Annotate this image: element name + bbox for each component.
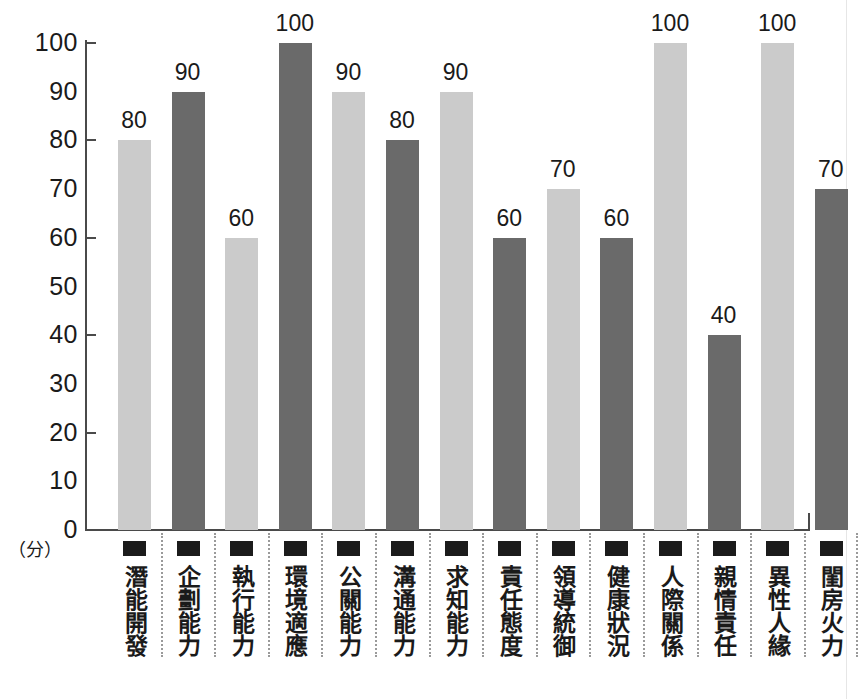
- y-axis-unit-label: （分）: [8, 540, 62, 560]
- bar: [547, 189, 580, 530]
- category-label: 領導統御: [537, 565, 589, 657]
- category-marker-icon: [445, 541, 468, 556]
- y-axis-tick-label: 30: [8, 371, 78, 396]
- bar: [654, 43, 687, 530]
- category-label: 健康狀況: [590, 565, 642, 657]
- category-label: 責任態度: [483, 565, 535, 657]
- bar-slot: 80: [108, 43, 160, 530]
- category-marker-icon: [498, 541, 521, 556]
- category-column: 環境適應: [269, 531, 321, 699]
- category-column: 責任態度: [483, 531, 535, 699]
- bar-slot: 60: [215, 43, 267, 530]
- category-marker-icon: [605, 541, 628, 556]
- category-column: 執行能力: [215, 531, 267, 699]
- category-label: 潛能開發: [108, 565, 160, 657]
- category-label: 公關能力: [322, 565, 374, 657]
- bar-value-label: 80: [376, 109, 428, 132]
- category-marker-icon: [230, 541, 253, 556]
- category-column: 人際關係: [644, 531, 696, 699]
- category-marker-icon: [659, 541, 682, 556]
- bar-value-label: 40: [698, 304, 750, 327]
- category-column: 企劃能力: [162, 531, 214, 699]
- bar-value-label: 90: [322, 61, 374, 84]
- category-label: 執行能力: [215, 565, 267, 657]
- category-label: 企劃能力: [162, 565, 214, 657]
- category-column: 潛能開發: [108, 531, 160, 699]
- y-axis-tick-label: 80: [8, 127, 78, 152]
- y-axis-tick-labels: 1009080706050403020100: [0, 0, 78, 699]
- bar-value-label: 60: [215, 207, 267, 230]
- bar-slot: 90: [162, 43, 214, 530]
- bar-slot: 90: [430, 43, 482, 530]
- bar-slot: 60: [483, 43, 535, 530]
- category-marker-icon: [552, 541, 575, 556]
- category-column: 健康狀況: [590, 531, 642, 699]
- y-axis-tick-label: 50: [8, 274, 78, 299]
- bar: [118, 140, 151, 530]
- y-axis-tick-label: 90: [8, 79, 78, 104]
- category-column: 異性人緣: [751, 531, 803, 699]
- bar-slot: 70: [805, 43, 857, 530]
- bar: [815, 189, 848, 530]
- y-axis-tick-label: 60: [8, 225, 78, 250]
- category-marker-icon: [177, 541, 200, 556]
- bar: [172, 92, 205, 530]
- category-column: 公關能力: [322, 531, 374, 699]
- category-marker-icon: [123, 541, 146, 556]
- bar-value-label: 70: [537, 158, 589, 181]
- bar-value-label: 90: [430, 61, 482, 84]
- bar: [332, 92, 365, 530]
- bar-slot: 100: [751, 43, 803, 530]
- bar-slot: 40: [698, 43, 750, 530]
- bar: [761, 43, 794, 530]
- bar: [440, 92, 473, 530]
- category-label-strip: 潛能開發企劃能力執行能力環境適應公關能力溝通能力求知能力責任態度領導統御健康狀況…: [85, 531, 808, 699]
- bar: [708, 335, 741, 530]
- category-marker-icon: [820, 541, 843, 556]
- bar-value-label: 70: [805, 158, 857, 181]
- category-marker-icon: [337, 541, 360, 556]
- bar-slot: 100: [269, 43, 321, 530]
- y-axis-tick-label: 10: [8, 468, 78, 493]
- category-label: 親情責任: [698, 565, 750, 657]
- bar: [279, 43, 312, 530]
- bar-slot: 80: [376, 43, 428, 530]
- category-label: 異性人緣: [751, 565, 803, 657]
- category-column: 親情責任: [698, 531, 750, 699]
- category-column: 溝通能力: [376, 531, 428, 699]
- bar: [225, 238, 258, 530]
- category-label: 閨房火力: [805, 565, 857, 657]
- y-axis-tick-label: 20: [8, 420, 78, 445]
- y-axis-tick-label: 40: [8, 322, 78, 347]
- category-column: 領導統御: [537, 531, 589, 699]
- bar-slot: 70: [537, 43, 589, 530]
- bar-value-label: 100: [751, 12, 803, 35]
- bar-value-label: 90: [162, 61, 214, 84]
- bar-slot: 90: [322, 43, 374, 530]
- category-label: 人際關係: [644, 565, 696, 657]
- category-marker-icon: [284, 541, 307, 556]
- bar-value-label: 60: [483, 207, 535, 230]
- category-column: 閨房火力: [805, 531, 857, 699]
- bar: [386, 140, 419, 530]
- bar-value-label: 80: [108, 109, 160, 132]
- bar: [493, 238, 526, 530]
- plot-area: 8090601009080906070601004010070: [85, 43, 808, 530]
- category-column: 求知能力: [430, 531, 482, 699]
- y-axis-tick-label: 70: [8, 176, 78, 201]
- bar-value-label: 60: [590, 207, 642, 230]
- bar: [600, 238, 633, 530]
- category-marker-icon: [766, 541, 789, 556]
- category-label: 環境適應: [269, 565, 321, 657]
- category-marker-icon: [713, 541, 736, 556]
- bar-value-label: 100: [644, 12, 696, 35]
- category-marker-icon: [391, 541, 414, 556]
- bar-slot: 60: [590, 43, 642, 530]
- y-axis-tick-label: 100: [8, 30, 78, 55]
- category-label: 求知能力: [430, 565, 482, 657]
- y-axis-tick-label: 0: [8, 517, 78, 542]
- bar-slot: 100: [644, 43, 696, 530]
- category-label: 溝通能力: [376, 565, 428, 657]
- bar-value-label: 100: [269, 12, 321, 35]
- bar-chart: 1009080706050403020100 （分） 8090601009080…: [0, 0, 860, 699]
